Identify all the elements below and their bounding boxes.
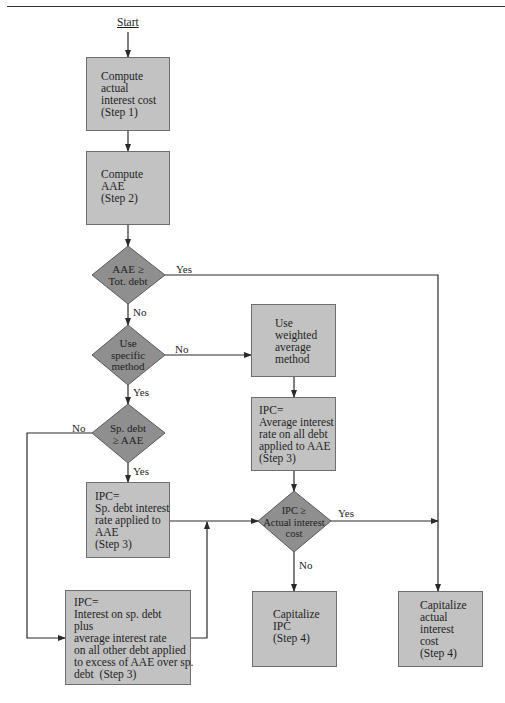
decision-aae-text: AAE ≥ Tot. debt (109, 264, 148, 287)
box-text: IPC= Average interest rate on all debt a… (259, 404, 335, 464)
box-capitalize-ipc: Capitalize IPC (Step 4) (252, 591, 337, 667)
box-text: Use weighted average method (275, 317, 335, 365)
box-text: IPC= Interest on sp. debt plus average i… (74, 596, 190, 680)
box-capitalize-actual-interest: Capitalize actual interest cost (Step 4) (398, 591, 483, 667)
box-compute-actual-interest: Compute actual interest cost (Step 1) (86, 57, 170, 131)
box-text: Capitalize IPC (Step 4) (273, 608, 336, 644)
box-ipc-specific-rate: IPC= Sp. debt interest rate applied to A… (86, 482, 170, 558)
edge-label-aae-no: No (133, 307, 146, 318)
box-ipc-combined: IPC= Interest on sp. debt plus average i… (65, 590, 191, 685)
box-compute-aae: Compute AAE (Step 2) (86, 151, 170, 225)
edge-label-aae-yes: Yes (176, 264, 192, 275)
decision-specific-text: Use specific method (111, 338, 145, 373)
edge-label-specific-yes: Yes (133, 387, 149, 398)
box-text: Capitalize actual interest cost (Step 4) (420, 599, 482, 659)
box-weighted-average-method: Use weighted average method (251, 304, 336, 377)
edge-label-ipc-yes: Yes (338, 508, 354, 519)
edge-label-specific-no: No (175, 344, 188, 355)
box-ipc-average-rate: IPC= Average interest rate on all debt a… (251, 397, 336, 471)
decision-spdebt-text: Sp. debt ≥ AAE (110, 423, 146, 446)
edge-label-spdebt-no: No (72, 423, 85, 434)
edge-label-ipc-no: No (299, 560, 312, 571)
start-label: Start (117, 16, 139, 28)
flowchart-canvas: Start Compute actual interest cost (Step… (0, 0, 505, 703)
box-text: Compute actual interest cost (Step 1) (101, 70, 169, 118)
edge-label-spdebt-yes: Yes (133, 466, 149, 477)
decision-ipc-text: IPC ≥ Actual interest cost (263, 505, 325, 540)
box-text: Compute AAE (Step 2) (101, 168, 169, 204)
box-text: IPC= Sp. debt interest rate applied to A… (95, 490, 169, 550)
